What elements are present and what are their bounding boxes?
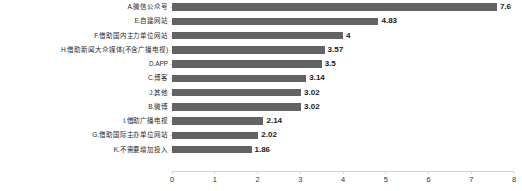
category-label: E.自建网站: [0, 17, 172, 25]
x-axis-ticks: 012345678: [172, 172, 514, 191]
bar-value-label: 3.5: [325, 60, 336, 68]
bar: [172, 103, 301, 111]
x-axis-tick: 7: [469, 172, 473, 185]
row-tick-mark: [170, 21, 172, 22]
bar-value-label: 4.83: [381, 17, 397, 25]
bar: [172, 46, 325, 54]
row-tick-mark: [170, 36, 172, 37]
bar-row: K.不需要增加投入1.86: [0, 143, 522, 157]
tick-label: 4: [341, 175, 345, 185]
category-label: J.其他: [0, 89, 172, 97]
bar-track: 2.14: [172, 114, 522, 128]
bar-row: D.APP3.5: [0, 57, 522, 71]
category-label: I.借助广播电视: [0, 117, 172, 125]
bar-row: I.借助广播电视2.14: [0, 114, 522, 128]
bar-row: B.微博3.02: [0, 100, 522, 114]
tick-mark: [342, 172, 343, 174]
row-tick-mark: [170, 78, 172, 79]
row-tick-mark: [170, 93, 172, 94]
bar-value-label: 4: [346, 32, 350, 40]
bar-value-label: 3.57: [328, 46, 344, 54]
bar-row: G.借助国际主办单位网站2.02: [0, 128, 522, 142]
x-axis-tick: 1: [213, 172, 217, 185]
bar-track: 3.02: [172, 86, 522, 100]
x-axis-tick: 4: [341, 172, 345, 185]
bar-row: H.借助新闻大众媒体(不含广播电视)3.57: [0, 43, 522, 57]
bar: [172, 32, 343, 40]
bar-value-label: 3.02: [304, 103, 320, 111]
bar-row: F.借助国内主力单位网站4: [0, 29, 522, 43]
bar-track: 3.57: [172, 43, 522, 57]
tick-mark: [428, 172, 429, 174]
x-axis-tick: 3: [298, 172, 302, 185]
row-tick-mark: [170, 121, 172, 122]
tick-label: 6: [426, 175, 430, 185]
x-axis-tick: 2: [255, 172, 259, 185]
tick-label: 5: [384, 175, 388, 185]
tick-label: 3: [298, 175, 302, 185]
bar-value-label: 3.02: [304, 89, 320, 97]
bar-value-label: 2.02: [261, 131, 277, 139]
row-tick-mark: [170, 107, 172, 108]
bar-track: 2.02: [172, 128, 522, 142]
bar-track: 3.5: [172, 57, 522, 71]
row-tick-mark: [170, 50, 172, 51]
bar: [172, 75, 306, 83]
bar-row: C.博客3.14: [0, 71, 522, 85]
category-label: K.不需要增加投入: [0, 146, 172, 154]
x-axis-tick: 5: [384, 172, 388, 185]
tick-label: 8: [512, 175, 516, 185]
bar-value-label: 1.86: [255, 146, 271, 154]
bar-value-label: 2.14: [266, 117, 282, 125]
row-tick-mark: [170, 135, 172, 136]
bar-value-label: 3.14: [309, 74, 325, 82]
bar-track: 3.02: [172, 100, 522, 114]
bar-value-label: 7.6: [500, 3, 511, 11]
bar-row: A.微信公众号7.6: [0, 0, 522, 14]
category-label: H.借助新闻大众媒体(不含广播电视): [0, 46, 172, 54]
bar-track: 1.86: [172, 143, 522, 157]
bar-track: 7.6: [172, 0, 522, 14]
bar: [172, 3, 497, 11]
tick-label: 7: [469, 175, 473, 185]
bar-row: J.其他3.02: [0, 86, 522, 100]
tick-mark: [257, 172, 258, 174]
row-tick-mark: [170, 150, 172, 151]
category-label: G.借助国际主办单位网站: [0, 131, 172, 139]
bar: [172, 89, 301, 97]
bar-track: 4.83: [172, 14, 522, 28]
row-tick-mark: [170, 7, 172, 8]
bar-track: 3.14: [172, 71, 522, 85]
tick-label: 2: [255, 175, 259, 185]
category-label: A.微信公众号: [0, 3, 172, 11]
tick-mark: [513, 172, 514, 174]
bar-track: 4: [172, 29, 522, 43]
tick-mark: [471, 172, 472, 174]
bar: [172, 117, 263, 125]
category-label: F.借助国内主力单位网站: [0, 32, 172, 40]
chart-plot-area: A.微信公众号7.6E.自建网站4.83F.借助国内主力单位网站4H.借助新闻大…: [0, 0, 522, 171]
tick-mark: [171, 172, 172, 174]
bar-row: E.自建网站4.83: [0, 14, 522, 28]
bar: [172, 60, 322, 68]
category-label: C.博客: [0, 74, 172, 82]
x-axis-tick: 8: [512, 172, 516, 185]
tick-label: 1: [213, 175, 217, 185]
bar: [172, 146, 252, 154]
row-tick-mark: [170, 64, 172, 65]
tick-label: 0: [170, 175, 174, 185]
bar: [172, 18, 378, 26]
tick-mark: [385, 172, 386, 174]
category-label: D.APP: [0, 60, 172, 68]
tick-mark: [214, 172, 215, 174]
x-axis-tick: 6: [426, 172, 430, 185]
category-label: B.微博: [0, 103, 172, 111]
tick-mark: [300, 172, 301, 174]
x-axis-tick: 0: [170, 172, 174, 185]
bar-chart: A.微信公众号7.6E.自建网站4.83F.借助国内主力单位网站4H.借助新闻大…: [0, 0, 522, 191]
bar: [172, 132, 258, 140]
